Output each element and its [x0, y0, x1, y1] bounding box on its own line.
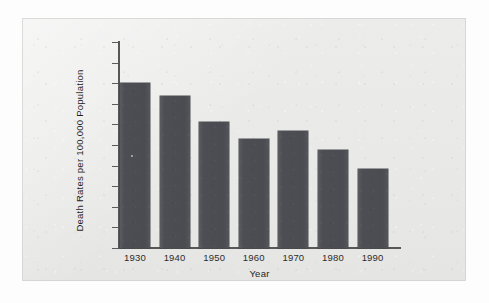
- bar-slot: [160, 42, 190, 248]
- x-tick-label: 1930: [115, 252, 155, 263]
- y-tick-mark: [112, 104, 118, 105]
- y-tick-row: 30: [0, 181, 118, 191]
- y-tick-row: 10: [0, 222, 118, 232]
- y-tick-row: 20: [0, 202, 118, 212]
- y-tick-mark: [112, 145, 118, 146]
- y-tick-mark: [112, 248, 118, 249]
- bars-layer: [120, 42, 398, 248]
- bar-1960[interactable]: [239, 139, 269, 248]
- y-tick-row: 40: [0, 161, 118, 171]
- bar-slot: [358, 42, 388, 248]
- x-tick-label: 1960: [234, 252, 274, 263]
- bar-1940[interactable]: [160, 96, 190, 248]
- x-tick-label: 1990: [353, 252, 393, 263]
- y-tick-mark: [112, 227, 118, 228]
- bar-1930[interactable]: [120, 83, 150, 248]
- scan-artifact-speck: [131, 155, 133, 157]
- y-tick-mark: [112, 166, 118, 167]
- y-tick-mark: [112, 42, 118, 43]
- bar-1970[interactable]: [278, 131, 308, 248]
- bar-1990[interactable]: [358, 169, 388, 248]
- y-tick-mark: [112, 207, 118, 208]
- y-tick-row: 50: [0, 140, 118, 150]
- y-tick-mark: [112, 186, 118, 187]
- bar-1950[interactable]: [199, 122, 229, 248]
- bar-slot: [199, 42, 229, 248]
- y-tick-row: 60: [0, 119, 118, 129]
- x-tick-label: 1970: [273, 252, 313, 263]
- y-tick-mark: [112, 83, 118, 84]
- bar-slot: [239, 42, 269, 248]
- x-tick-label: 1950: [194, 252, 234, 263]
- x-tick-label: 1940: [155, 252, 195, 263]
- y-tick-row: 0: [0, 243, 118, 253]
- y-tick-mark: [112, 63, 118, 64]
- bar-slot: [278, 42, 308, 248]
- bar-slot: [318, 42, 348, 248]
- bar-chart-plot-area: Death Rates per 100,000 Population 01020…: [0, 0, 489, 303]
- figure-root: Death Rates per 100,000 Population 01020…: [0, 0, 489, 303]
- y-tick-row: 100: [0, 37, 118, 47]
- y-tick-mark: [112, 124, 118, 125]
- x-tick-label: 1980: [313, 252, 353, 263]
- bar-1980[interactable]: [318, 150, 348, 248]
- bar-slot: [120, 42, 150, 248]
- y-tick-row: 90: [0, 58, 118, 68]
- y-tick-row: 80: [0, 78, 118, 88]
- x-axis-title: Year: [118, 268, 401, 279]
- y-tick-row: 70: [0, 99, 118, 109]
